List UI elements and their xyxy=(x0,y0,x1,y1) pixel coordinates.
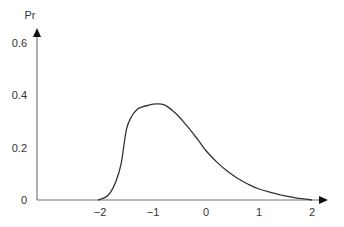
probability-curve xyxy=(98,104,312,200)
y-tick-label: 0 xyxy=(21,194,27,206)
x-axis: −2−1012 xyxy=(37,196,328,218)
x-tick-label: −2 xyxy=(94,206,107,218)
chart: Pr 00.20.40.6 −2−1012 xyxy=(0,0,344,227)
y-axis: Pr 00.20.40.6 xyxy=(12,9,41,206)
y-tick-label: 0.4 xyxy=(12,89,27,101)
y-axis-title: Pr xyxy=(25,9,36,21)
x-tick-label: 2 xyxy=(309,206,315,218)
x-axis-arrow-icon xyxy=(319,196,328,204)
x-tick-label: −1 xyxy=(147,206,160,218)
y-tick-label: 0.2 xyxy=(12,142,27,154)
x-tick-label: 0 xyxy=(203,206,209,218)
x-tick-label: 1 xyxy=(256,206,262,218)
y-tick-label: 0.6 xyxy=(12,37,27,49)
y-axis-arrow-icon xyxy=(33,28,41,37)
